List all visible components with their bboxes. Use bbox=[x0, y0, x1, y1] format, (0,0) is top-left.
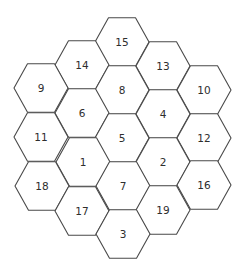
hex-label: 10 bbox=[197, 84, 210, 96]
hex-label: 6 bbox=[79, 107, 86, 119]
hex-label: 2 bbox=[160, 156, 167, 168]
hex-label: 7 bbox=[120, 180, 127, 192]
hex-label: 16 bbox=[197, 179, 211, 191]
hex-label: 9 bbox=[38, 82, 45, 94]
hex-grid-diagram: 15141398106411512121871617193 bbox=[0, 0, 242, 273]
hex-label: 4 bbox=[160, 108, 167, 120]
hex-label: 19 bbox=[156, 204, 169, 216]
hex-label: 14 bbox=[75, 59, 89, 71]
hex-label: 5 bbox=[119, 132, 126, 144]
hex-label: 12 bbox=[197, 132, 210, 144]
hex-label: 1 bbox=[80, 156, 87, 168]
hex-label: 3 bbox=[120, 228, 127, 240]
hex-label: 8 bbox=[119, 84, 126, 96]
hex-label: 15 bbox=[115, 36, 128, 48]
hex-label: 13 bbox=[156, 60, 169, 72]
hex-label: 11 bbox=[34, 131, 47, 143]
hex-label: 18 bbox=[35, 180, 48, 192]
hex-label: 17 bbox=[75, 205, 88, 217]
